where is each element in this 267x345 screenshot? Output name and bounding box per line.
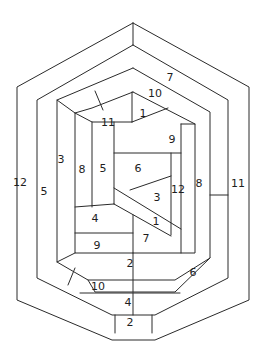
ring3-slash-top — [95, 91, 103, 110]
region-label: 7 — [167, 71, 174, 84]
region-label: 1 — [140, 107, 147, 120]
piece3-top — [130, 176, 171, 190]
region-label: 9 — [169, 133, 176, 146]
region-label: 4 — [92, 212, 99, 225]
region-label: 5 — [41, 185, 48, 198]
region-label: 3 — [154, 191, 161, 204]
piece1-diag — [132, 108, 168, 122]
region-label: 2 — [127, 257, 134, 270]
region-label: 6 — [190, 266, 197, 279]
region-label: 7 — [143, 232, 150, 245]
region-label: 12 — [13, 176, 27, 189]
ring3-left-inner — [57, 100, 75, 113]
hexagon-dissection-diagram: 710111938561251281131479261042 — [0, 0, 267, 345]
ring3-bottom-line — [57, 253, 75, 262]
piece4-top — [75, 204, 114, 207]
region-label: 1 — [153, 215, 160, 228]
region-label: 8 — [79, 163, 86, 176]
diagram-edges — [17, 23, 249, 340]
region-label: 9 — [94, 239, 101, 252]
region-label: 3 — [58, 153, 65, 166]
region-label: 11 — [231, 177, 245, 190]
region-label: 2 — [127, 316, 134, 329]
region-label: 10 — [148, 87, 162, 100]
region-label: 10 — [91, 280, 105, 293]
region-label: 4 — [125, 296, 132, 309]
diagram-canvas: 710111938561251281131479261042 — [0, 0, 267, 345]
region-label: 11 — [101, 116, 115, 129]
region-label: 5 — [100, 162, 107, 175]
region-label: 8 — [196, 177, 203, 190]
region-label: 12 — [171, 183, 185, 196]
region-label: 6 — [135, 162, 142, 175]
